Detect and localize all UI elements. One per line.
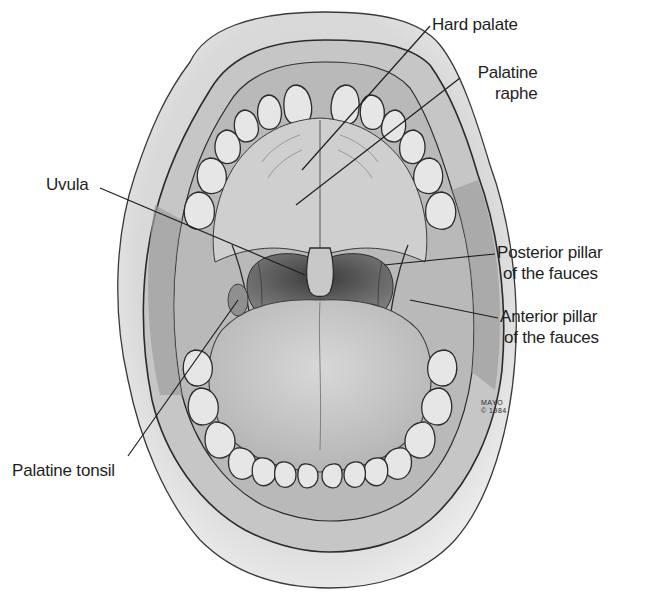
uvula (307, 248, 334, 297)
label-posterior-pillar: Posterior pillar of the fauces (497, 242, 602, 284)
label-anterior-pillar-line2: of the fauces (500, 327, 599, 348)
label-hard-palate-text: Hard palate (432, 15, 518, 34)
label-posterior-pillar-line1: Posterior pillar (497, 242, 602, 263)
label-palatine-raphe-line2: raphe (463, 83, 537, 104)
credit-line2: © 1984 (481, 407, 507, 415)
label-palatine-raphe: Palatine raphe (463, 62, 537, 104)
label-palatine-raphe-line1: Palatine (463, 62, 537, 83)
label-palatine-tonsil: Palatine tonsil (12, 460, 115, 481)
credit-line1: MAYO (481, 399, 507, 407)
label-posterior-pillar-line2: of the fauces (497, 263, 602, 284)
label-palatine-tonsil-text: Palatine tonsil (12, 461, 115, 480)
mouth-illustration (0, 0, 648, 594)
label-anterior-pillar: Anterior pillar of the fauces (500, 306, 599, 348)
label-uvula-text: Uvula (46, 175, 88, 194)
label-uvula: Uvula (46, 174, 88, 195)
copyright-credit: MAYO © 1984 (481, 399, 507, 415)
label-hard-palate: Hard palate (432, 14, 518, 35)
label-anterior-pillar-line1: Anterior pillar (500, 306, 599, 327)
